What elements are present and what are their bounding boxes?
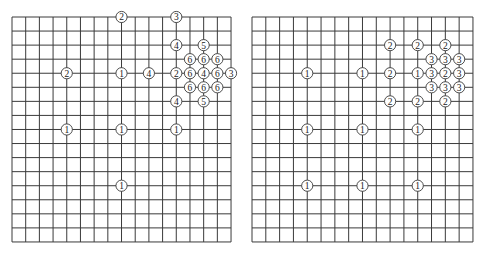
stone-label: 4	[201, 69, 206, 79]
numbered-stone: 2	[385, 40, 396, 51]
numbered-stone: 1	[357, 124, 368, 135]
stone-label: 5	[201, 97, 206, 107]
numbered-stone: 4	[143, 68, 154, 79]
grid-board-left: 234566621426463666451111	[0, 0, 240, 257]
stone-label: 1	[119, 181, 124, 191]
stone-label: 3	[429, 83, 434, 93]
stone-label: 4	[147, 69, 152, 79]
numbered-stone: 6	[212, 82, 223, 93]
stone-label: 2	[119, 12, 124, 22]
stone-label: 2	[64, 69, 69, 79]
numbered-stone: 1	[116, 180, 127, 191]
numbered-stone: 6	[212, 54, 223, 65]
numbered-stone: 6	[184, 82, 195, 93]
stone-label: 6	[215, 55, 220, 65]
stone-label: 3	[429, 55, 434, 65]
stone-label: 2	[174, 69, 179, 79]
numbered-stone: 2	[412, 96, 423, 107]
numbered-stone: 3	[426, 68, 437, 79]
numbered-stone: 1	[116, 124, 127, 135]
numbered-stone: 3	[454, 68, 465, 79]
numbered-stone: 6	[198, 82, 209, 93]
stone-label: 1	[360, 69, 365, 79]
stone-label: 3	[443, 55, 448, 65]
numbered-stone: 1	[412, 124, 423, 135]
stone-label: 1	[305, 125, 310, 135]
numbered-stone: 1	[302, 124, 313, 135]
numbered-stone: 2	[385, 68, 396, 79]
numbered-stone: 1	[171, 124, 182, 135]
stone-label: 4	[174, 97, 179, 107]
stone-label: 2	[443, 97, 448, 107]
stone-label: 6	[201, 55, 206, 65]
stone-label: 2	[443, 41, 448, 51]
numbered-stone: 4	[171, 96, 182, 107]
stone-label: 3	[174, 12, 179, 22]
stone-label: 1	[415, 181, 420, 191]
numbered-stone: 2	[61, 68, 72, 79]
numbered-stone: 3	[454, 82, 465, 93]
stone-label: 2	[388, 69, 393, 79]
stone-label: 1	[119, 125, 124, 135]
stone-label: 6	[201, 83, 206, 93]
numbered-stone: 2	[171, 68, 182, 79]
stone-label: 6	[188, 69, 193, 79]
stone-label: 3	[229, 69, 234, 79]
numbered-stone: 1	[412, 180, 423, 191]
stone-label: 1	[119, 69, 124, 79]
numbered-stone: 4	[171, 40, 182, 51]
stone-label: 2	[388, 41, 393, 51]
numbered-stone: 6	[184, 68, 195, 79]
stone-label: 1	[174, 125, 179, 135]
stone-label: 6	[215, 69, 220, 79]
numbered-stone: 3	[225, 68, 236, 79]
numbered-stone: 4	[198, 68, 209, 79]
stone-label: 5	[201, 41, 206, 51]
numbered-stone: 6	[212, 68, 223, 79]
numbered-stone: 2	[440, 40, 451, 51]
numbered-stone: 3	[426, 82, 437, 93]
stone-label: 3	[429, 69, 434, 79]
numbered-stone: 1	[357, 68, 368, 79]
numbered-stone: 2	[440, 96, 451, 107]
stone-label: 2	[443, 69, 448, 79]
numbered-stone: 3	[171, 11, 182, 22]
numbered-stone: 1	[357, 180, 368, 191]
stone-label: 2	[388, 97, 393, 107]
stone-label: 1	[305, 69, 310, 79]
numbered-stone: 1	[302, 68, 313, 79]
numbered-stone: 3	[440, 82, 451, 93]
grid-right-svg: 2223331121323333222111111	[240, 0, 480, 257]
numbered-stone: 1	[412, 68, 423, 79]
stone-label: 6	[188, 55, 193, 65]
grid-left-svg: 234566621426463666451111	[0, 0, 240, 257]
stone-label: 3	[457, 83, 462, 93]
numbered-stone: 6	[184, 54, 195, 65]
numbered-stone: 1	[302, 180, 313, 191]
stone-label: 1	[360, 125, 365, 135]
numbered-stone: 3	[426, 54, 437, 65]
numbered-stone: 2	[412, 40, 423, 51]
numbered-stone: 2	[385, 96, 396, 107]
numbered-stone: 5	[198, 40, 209, 51]
grid-board-right: 2223331121323333222111111	[240, 0, 480, 257]
stone-label: 3	[457, 55, 462, 65]
numbered-stone: 2	[440, 68, 451, 79]
numbered-stone: 6	[198, 54, 209, 65]
numbered-stone: 1	[61, 124, 72, 135]
stone-label: 3	[443, 83, 448, 93]
numbered-stone: 3	[454, 54, 465, 65]
stone-label: 6	[188, 83, 193, 93]
stone-label: 1	[415, 69, 420, 79]
stone-label: 2	[415, 41, 420, 51]
stone-label: 4	[174, 41, 179, 51]
numbered-stone: 3	[440, 54, 451, 65]
stone-label: 2	[415, 97, 420, 107]
stone-label: 1	[360, 181, 365, 191]
stone-label: 3	[457, 69, 462, 79]
stone-label: 1	[64, 125, 69, 135]
stone-label: 1	[415, 125, 420, 135]
numbered-stone: 2	[116, 11, 127, 22]
numbered-stone: 1	[116, 68, 127, 79]
numbered-stone: 5	[198, 96, 209, 107]
